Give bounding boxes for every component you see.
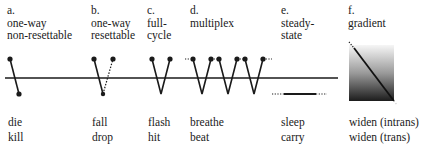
panel-f-example-1: widen (intrans) (349, 116, 419, 129)
panel-a-graphic (7, 56, 21, 96)
panel-b-example-2: drop (92, 131, 113, 144)
panel-e-example-1: sleep (281, 116, 305, 129)
panel-a-example-2: kill (8, 131, 23, 144)
panel-f-graphic (349, 42, 397, 105)
panel-f-example-2: widen (trans) (349, 131, 410, 144)
panel-c-example-2: hit (148, 131, 160, 144)
panel-d-example-2: beat (190, 131, 209, 144)
panel-e-example-2: carry (281, 131, 305, 144)
panel-c-example-1: flash (148, 116, 170, 129)
panel-c-graphic (149, 56, 172, 94)
panel-d-example-1: breathe (190, 116, 224, 129)
panel-a-example-1: die (8, 116, 22, 129)
panel-d-graphic (185, 56, 272, 94)
panel-b-graphic (91, 56, 115, 96)
panel-b-example-1: fall (92, 116, 107, 129)
